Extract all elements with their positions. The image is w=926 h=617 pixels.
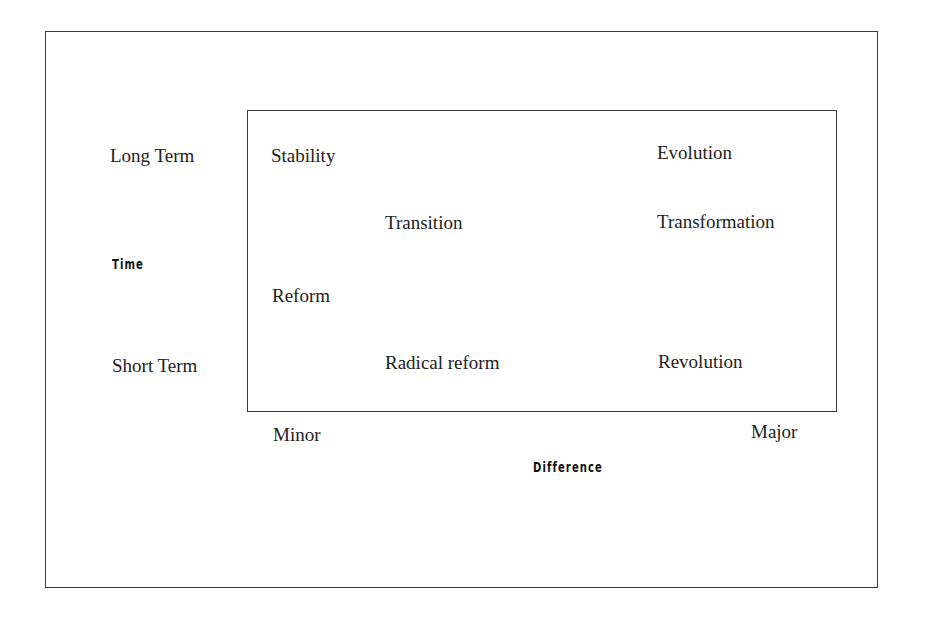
x-axis-left-label: Minor (273, 425, 321, 444)
cell-reform: Reform (272, 286, 330, 305)
cell-revolution: Revolution (658, 352, 742, 371)
cell-evolution: Evolution (657, 143, 732, 162)
y-axis-bottom-label: Short Term (112, 356, 197, 375)
quadrant-plot-area (247, 110, 837, 412)
cell-transformation: Transformation (657, 212, 775, 231)
cell-transition: Transition (385, 213, 462, 232)
cell-radical-reform: Radical reform (385, 353, 499, 372)
cell-stability: Stability (271, 146, 335, 165)
x-axis-right-label: Major (751, 422, 797, 441)
y-axis-top-label: Long Term (110, 146, 194, 165)
y-axis-title: Time (112, 257, 144, 271)
x-axis-title: Difference (533, 460, 603, 474)
